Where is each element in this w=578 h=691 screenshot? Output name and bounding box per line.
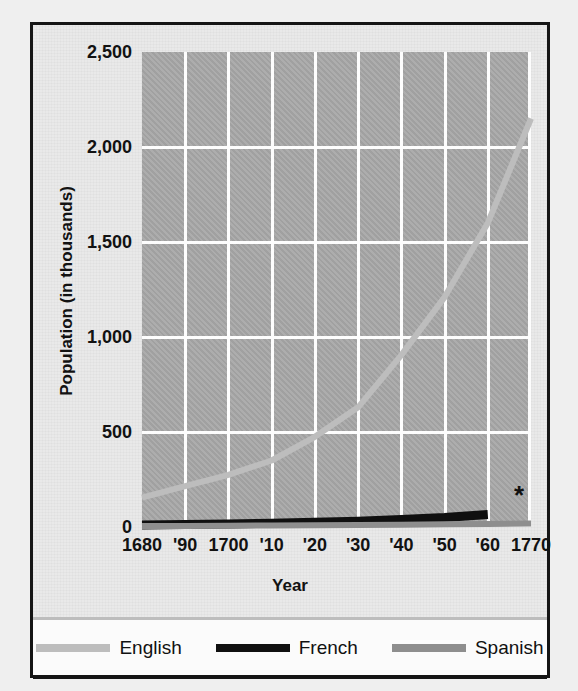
plot-area: * (142, 52, 531, 527)
legend-label: Spanish (475, 637, 544, 659)
legend-swatch-french (216, 644, 290, 652)
x-axis-tick-label: '60 (476, 536, 500, 554)
y-axis-tick-label: 2,500 (40, 43, 132, 61)
y-axis-tick-label: 0 (40, 518, 132, 536)
x-axis-tick-label: '40 (389, 536, 413, 554)
y-axis-tick-label: 1,000 (40, 328, 132, 346)
chart-legend: EnglishFrenchSpanish (33, 620, 547, 675)
legend-label: English (119, 637, 181, 659)
footnote-asterisk: * (514, 480, 525, 510)
chart-plot-region: Population (in thousands) 2,5002,0001,50… (33, 25, 547, 605)
legend-swatch-spanish (392, 644, 466, 652)
x-axis-tick-label: 1680 (122, 536, 162, 554)
legend-item-english[interactable]: English (36, 637, 181, 659)
cropped-top-text (110, 0, 410, 16)
x-axis-tick-label: 1770 (511, 536, 551, 554)
chart-frame: Population (in thousands) 2,5002,0001,50… (30, 22, 550, 678)
x-axis-tick-label: '10 (260, 536, 284, 554)
x-axis-tick-label: '90 (173, 536, 197, 554)
legend-swatch-english (36, 644, 110, 652)
legend-label: French (299, 637, 358, 659)
x-axis-tick-label: '20 (303, 536, 327, 554)
y-axis-tick-label: 500 (40, 423, 132, 441)
y-axis-tick-label: 1,500 (40, 233, 132, 251)
legend-bottom-rule (33, 675, 547, 679)
legend-item-french[interactable]: French (216, 637, 358, 659)
series-line-spanish (142, 524, 531, 527)
series-lines: * (142, 52, 531, 527)
series-line-english (142, 119, 531, 498)
legend-item-spanish[interactable]: Spanish (392, 637, 544, 659)
x-axis-tick-label: '30 (346, 536, 370, 554)
y-axis-tick-label: 2,000 (40, 138, 132, 156)
x-axis-title: Year (33, 576, 547, 596)
x-axis-tick-label: 1700 (208, 536, 248, 554)
x-axis-tick-label: '50 (432, 536, 456, 554)
